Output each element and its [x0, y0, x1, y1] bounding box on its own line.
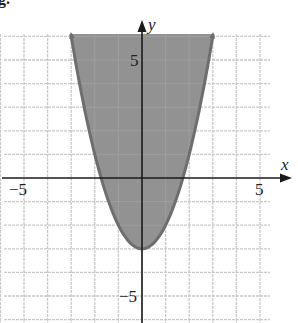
y-tick-label: 5: [130, 51, 139, 70]
x-tick-label: 5: [255, 180, 264, 199]
x-axis-label: x: [280, 155, 289, 174]
parabola-inequality-chart: xy−555−5: [0, 0, 298, 323]
x-tick-label: −5: [9, 180, 27, 199]
x-axis-arrow-icon: [280, 174, 292, 183]
y-axis-arrow-icon: [138, 20, 147, 32]
y-axis-label: y: [146, 15, 156, 34]
y-tick-label: −5: [119, 287, 137, 306]
